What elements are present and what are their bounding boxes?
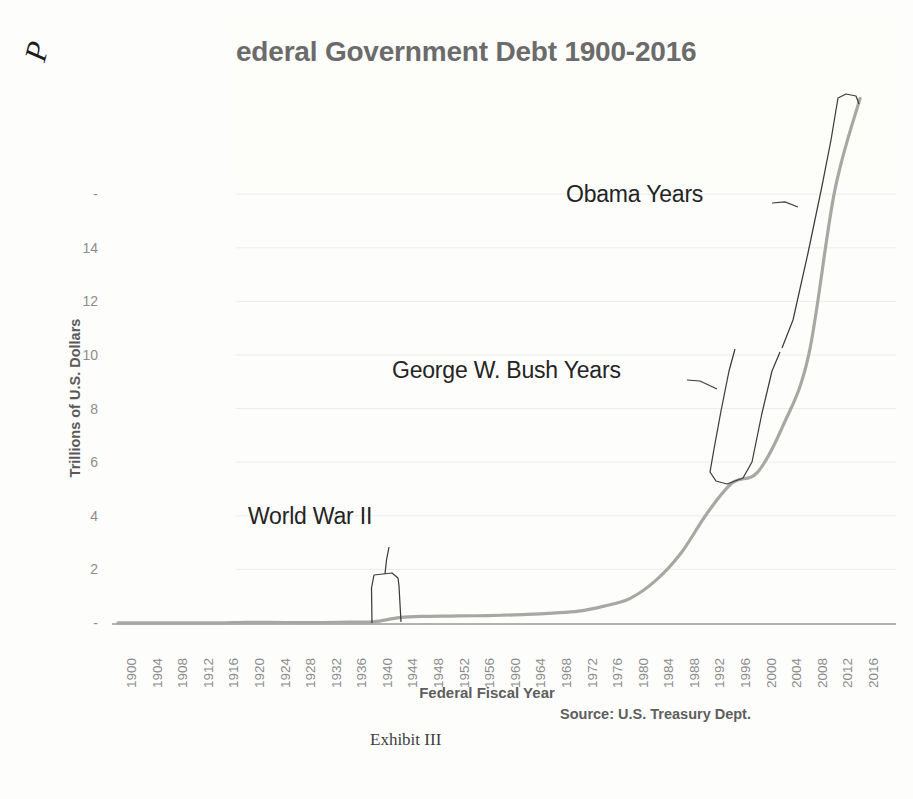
bracket-george-w-bush [710, 349, 780, 484]
y-tick-label: 12 [58, 294, 98, 308]
y-tick-label: - [58, 616, 98, 630]
debt-chart: ederal Government Debt 1900-2016 Trillio… [0, 0, 913, 740]
chart-title: ederal Government Debt 1900-2016 [236, 36, 896, 68]
source-note: Source: U.S. Treasury Dept. [560, 706, 751, 722]
y-axis-title: Trillions of U.S. Dollars [67, 278, 83, 518]
y-tick-label: - [58, 187, 98, 201]
leader-george-w-bush [687, 380, 717, 389]
annotation-george-w-bush-years: George W. Bush Years [392, 357, 621, 384]
bracket-world-war-ii [372, 573, 402, 623]
y-tick-label: 6 [58, 455, 98, 469]
y-tick-label: 8 [58, 402, 98, 416]
annotation-world-war-ii: World War II [248, 503, 372, 530]
leader-obama [772, 202, 798, 207]
y-tick-label: 14 [58, 241, 98, 255]
x-tick-label: 2016 [866, 658, 881, 688]
y-tick-label: 4 [58, 509, 98, 523]
y-tick-label: 2 [58, 562, 98, 576]
x-axis-title: Federal Fiscal Year [112, 684, 862, 701]
leader-world-war-ii [385, 547, 389, 574]
y-tick-label: 10 [58, 348, 98, 362]
exhibit-caption: Exhibit III [370, 730, 441, 750]
annotation-obama-years: Obama Years [566, 181, 703, 208]
